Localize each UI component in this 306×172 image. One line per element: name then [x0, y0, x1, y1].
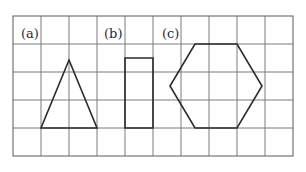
label-c: (c)	[162, 26, 179, 41]
hexagon-c	[170, 44, 262, 128]
shapes-layer	[41, 44, 262, 128]
labels-layer: (a) (b) (c)	[21, 26, 179, 41]
label-a: (a)	[21, 26, 39, 41]
label-b: (b)	[104, 26, 122, 41]
grid-diagram: (a) (b) (c)	[0, 0, 306, 172]
rectangle-b	[125, 58, 153, 128]
